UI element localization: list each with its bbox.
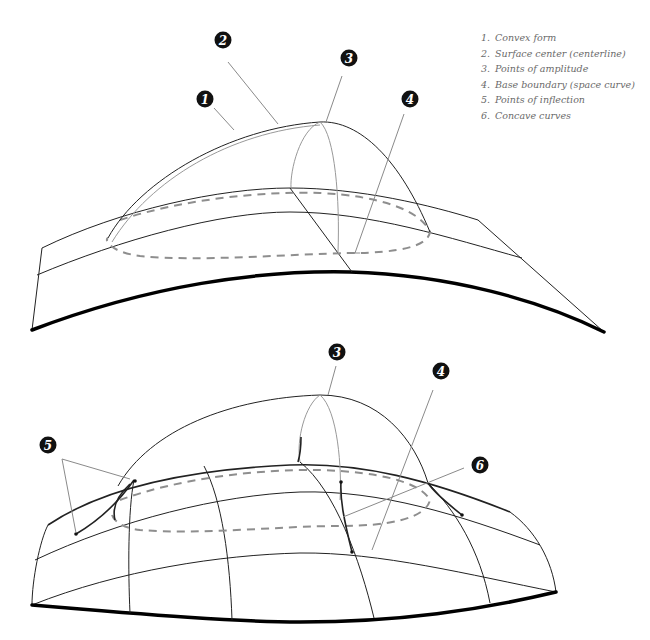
legend-label: Base boundary (space curve) bbox=[495, 79, 635, 90]
leader-1 bbox=[214, 108, 234, 130]
top-convex-form bbox=[108, 122, 430, 238]
marker-3: 3 bbox=[341, 50, 358, 67]
legend-item: 4.Base boundary (space curve) bbox=[481, 77, 635, 93]
legend-item: 6.Concave curves bbox=[481, 108, 635, 124]
bottom-amplitude-arc-right bbox=[320, 395, 340, 500]
marker-2: 2 bbox=[215, 32, 232, 49]
leader-2 bbox=[228, 62, 278, 124]
legend-number: 6. bbox=[481, 108, 495, 124]
top-amplitude-arc-left bbox=[291, 122, 320, 188]
marker-label: 3 bbox=[333, 345, 341, 359]
bottom-surface-second-edge bbox=[35, 492, 540, 560]
leader-3-bottom bbox=[328, 366, 336, 395]
marker-4-bottom: 4 bbox=[433, 363, 450, 380]
legend-label: Points of amplitude bbox=[495, 63, 588, 74]
top-surface-right-edge bbox=[478, 220, 604, 332]
legend-item: 5.Points of inflection bbox=[481, 92, 635, 108]
inflection-point bbox=[460, 513, 464, 517]
marker-4: 4 bbox=[402, 91, 419, 108]
top-centerline-cut bbox=[290, 188, 352, 272]
top-surface-bottom-edge bbox=[32, 272, 604, 332]
legend-label: Concave curves bbox=[495, 110, 571, 121]
marker-1: 1 bbox=[197, 91, 214, 108]
legend-item: 1.Convex form bbox=[481, 30, 635, 46]
bottom-surface-top-edge bbox=[48, 465, 510, 525]
bottom-diagram bbox=[32, 366, 556, 622]
bottom-meridian-1 bbox=[129, 480, 134, 613]
leader-5a bbox=[62, 459, 130, 479]
legend-item: 3.Points of amplitude bbox=[481, 61, 635, 77]
legend-label: Convex form bbox=[495, 32, 556, 43]
legend-item: 2.Surface center (centerline) bbox=[481, 46, 635, 62]
bottom-surface-bottom-edge bbox=[32, 592, 556, 622]
bottom-meridian-3 bbox=[300, 462, 374, 618]
legend-number: 2. bbox=[481, 46, 495, 62]
bottom-surface-third-edge bbox=[32, 553, 556, 605]
top-base-boundary bbox=[107, 193, 430, 258]
inflection-point bbox=[339, 480, 343, 484]
marker-label: 5 bbox=[44, 438, 52, 452]
bottom-meridian-2 bbox=[204, 466, 232, 620]
inflection-point bbox=[350, 550, 354, 554]
marker-label: 2 bbox=[219, 33, 227, 47]
leader-3 bbox=[326, 76, 342, 122]
marker-label: 6 bbox=[476, 458, 484, 472]
marker-label: 1 bbox=[201, 92, 209, 106]
marker-6: 6 bbox=[472, 457, 489, 474]
legend-number: 3. bbox=[481, 61, 495, 77]
marker-5: 5 bbox=[40, 437, 57, 454]
legend-number: 1. bbox=[481, 30, 495, 46]
top-surface-centerline bbox=[112, 125, 320, 242]
top-surface-left-edge bbox=[32, 248, 42, 330]
legend-label: Points of inflection bbox=[495, 94, 585, 105]
marker-label: 4 bbox=[406, 92, 414, 106]
inflection-point bbox=[133, 479, 137, 483]
marker-label: 4 bbox=[437, 364, 445, 378]
marker-3-bottom: 3 bbox=[329, 344, 346, 361]
bottom-surface-right-edge bbox=[510, 512, 556, 592]
bottom-surface-left-edge bbox=[32, 525, 48, 605]
bottom-amplitude-arc-left bbox=[299, 395, 320, 462]
top-surface-mid-edge bbox=[37, 212, 522, 275]
legend-number: 5. bbox=[481, 92, 495, 108]
leader-6 bbox=[343, 468, 464, 517]
leader-5b bbox=[62, 459, 76, 533]
marker-label: 3 bbox=[345, 51, 353, 65]
legend-label: Surface center (centerline) bbox=[495, 48, 626, 59]
legend-number: 4. bbox=[481, 77, 495, 93]
legend: 1.Convex form 2.Surface center (centerli… bbox=[481, 30, 635, 124]
